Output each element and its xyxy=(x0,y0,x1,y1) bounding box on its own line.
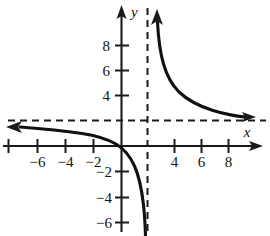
y-tick-label-neg6: −6 xyxy=(96,215,112,231)
left-branch-curve xyxy=(20,127,146,236)
x-tick-label-neg6: −6 xyxy=(30,154,46,170)
asymptotes-group xyxy=(8,8,266,236)
y-axis-label: y xyxy=(129,4,138,20)
y-tick-label-8: 8 xyxy=(103,38,111,54)
left-branch-group xyxy=(6,121,146,236)
right-branch-curve xyxy=(158,22,249,117)
y-tick-label-neg4: −4 xyxy=(96,190,112,206)
right-branch-group xyxy=(151,9,256,122)
graph-canvas: −6 −4 −2 4 6 8 8 6 4 −2 −4 −6 x y xyxy=(0,0,270,236)
y-tick-label-neg2: −2 xyxy=(96,164,112,180)
rational-function-graph-figure: −6 −4 −2 4 6 8 8 6 4 −2 −4 −6 x y xyxy=(0,0,270,236)
y-tick-label-4: 4 xyxy=(103,88,111,104)
axes-group xyxy=(3,5,263,232)
x-tick-label-8: 8 xyxy=(225,154,233,170)
y-tick-label-6: 6 xyxy=(103,63,111,79)
x-tick-label-4: 4 xyxy=(171,154,179,170)
x-axis-label: x xyxy=(243,124,251,140)
x-tick-label-neg4: −4 xyxy=(58,154,74,170)
y-tick-labels: 8 6 4 −2 −4 −6 xyxy=(96,38,112,231)
x-tick-label-6: 6 xyxy=(198,154,206,170)
